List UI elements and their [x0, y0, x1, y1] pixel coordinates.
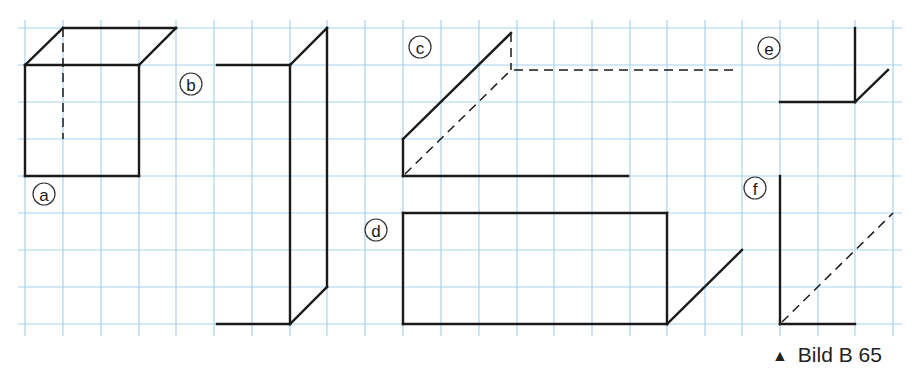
label-e: e: [758, 37, 780, 59]
grid-lines: [18, 20, 902, 336]
label-f: f: [744, 177, 766, 199]
label-b: b: [180, 73, 202, 95]
edge-visible: [855, 70, 888, 102]
cuboid-grid-diagram: abcdef: [0, 0, 915, 376]
edge-visible: [139, 28, 176, 65]
label-letter: e: [764, 40, 773, 59]
label-letter: a: [39, 186, 49, 205]
edge-visible: [25, 28, 63, 65]
label-a: a: [33, 183, 55, 205]
triangle-marker-icon: ▲: [772, 347, 788, 364]
figure-caption: ▲Bild B 65: [772, 343, 882, 367]
label-letter: b: [186, 76, 195, 95]
label-c: c: [409, 36, 431, 58]
label-letter: d: [371, 222, 380, 241]
caption-text: Bild B 65: [798, 343, 882, 366]
edge-visible: [290, 287, 327, 324]
edge-visible: [290, 28, 327, 65]
figure-d: [403, 213, 742, 324]
label-letter: f: [753, 180, 758, 199]
label-d: d: [365, 219, 387, 241]
label-letter: c: [416, 39, 425, 58]
figure-c: [403, 33, 735, 176]
edge-hidden: [782, 213, 893, 322]
